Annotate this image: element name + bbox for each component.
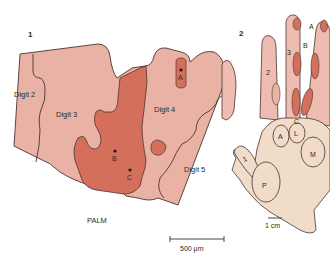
zone-c-finger3 [292,88,300,116]
label-pad-a: A [278,133,283,140]
label-marker-a: A [309,23,314,30]
label-digit-2: Digit 2 [14,90,35,99]
point-c-marker [128,168,131,171]
label-pad-l: L [294,130,298,137]
zone-b-finger3 [293,52,301,76]
label-point-a: A [178,74,183,81]
point-b-marker [113,149,116,152]
zone-a-right [321,20,328,32]
panel-2-hand [222,15,330,233]
zone-finger2 [272,83,280,105]
panel-1-map [14,44,230,205]
figure-canvas: 1 Digit 2 Digit 3 Digit 4 Digit 5 PALM A… [0,0,330,254]
zone-a [293,18,301,30]
label-marker-c: C [294,118,299,125]
label-marker-b: B [303,42,308,49]
label-finger-2: 2 [266,69,270,76]
label-pad-p: P [262,182,267,189]
map-dark-patch-a [176,58,186,88]
label-pad-m: M [310,151,316,158]
label-palm: PALM [87,216,107,225]
panel-2-number: 2 [239,29,244,38]
label-point-b: B [112,155,117,162]
label-finger-3: 3 [287,49,291,56]
scale-bar-1cm-label: 1 cm [265,222,280,229]
finger-2 [260,36,278,120]
label-point-c: C [127,174,132,181]
label-digit-4: Digit 4 [154,105,175,114]
label-digit-5: Digit 5 [184,165,205,174]
label-digit-3: Digit 3 [56,110,77,119]
finger-partial-left [222,60,236,120]
zone-b-finger4 [311,53,319,79]
scale-bar-500um [170,236,224,242]
panel-1-number: 1 [28,30,33,39]
point-a-marker [179,68,182,71]
scale-bar-500um-label: 500 μm [180,245,204,253]
